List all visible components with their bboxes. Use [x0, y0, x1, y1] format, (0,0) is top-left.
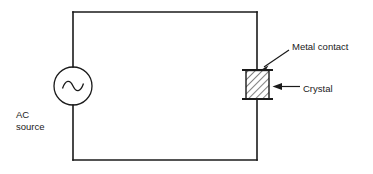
ac-source-label-line2: source [16, 121, 45, 133]
crystal-leader [273, 83, 301, 90]
metal-contact-label: Metal contact [292, 41, 349, 53]
metal-contact-leader [260, 50, 289, 71]
metal-contact-leader-line [264, 50, 289, 67]
ac-source-symbol [54, 67, 92, 105]
sine-wave-icon [63, 81, 84, 90]
circuit-diagram: Metal contact Crystal AC source [0, 0, 373, 174]
crystal-label: Crystal [303, 83, 333, 95]
ac-source-label: AC source [16, 109, 45, 133]
circuit-loop-wires [73, 12, 257, 160]
crystal-arrowhead [273, 83, 283, 90]
crystal-assembly [242, 70, 273, 99]
crystal-body [246, 71, 269, 100]
ac-source-label-line1: AC [16, 109, 29, 120]
